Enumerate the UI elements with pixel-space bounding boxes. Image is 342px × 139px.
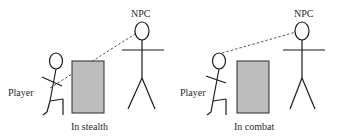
obstacle-box-combat (237, 61, 269, 113)
player-figure-stealth (42, 53, 63, 115)
obstacle-box-stealth (72, 61, 104, 113)
player-label-combat: Player (180, 88, 206, 98)
panel-stealth (42, 22, 164, 115)
npc-figure-combat (283, 22, 325, 109)
caption-combat: In combat (234, 122, 274, 132)
player-label-stealth: Player (8, 88, 34, 98)
npc-figure-stealth (122, 22, 164, 109)
npc-label-stealth: NPC (131, 9, 150, 19)
player-figure-combat (206, 53, 226, 115)
npc-label-combat: NPC (294, 9, 313, 19)
panel-combat (206, 22, 325, 115)
stealth-combat-diagram (0, 0, 342, 139)
caption-stealth: In stealth (71, 122, 108, 132)
